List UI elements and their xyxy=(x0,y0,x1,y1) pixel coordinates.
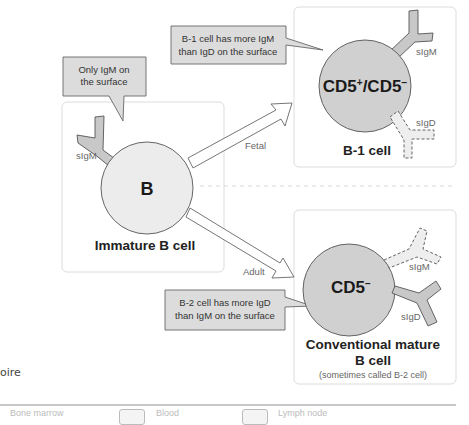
b1-sigd-label: sIgD xyxy=(416,117,436,128)
svg-text:the surface: the surface xyxy=(81,76,128,87)
blood-icon xyxy=(119,409,145,425)
legend-item-lymph-node: Lymph node xyxy=(278,408,327,421)
svg-text:than IgM on the surface: than IgM on the surface xyxy=(175,310,275,321)
immature-sigm-label: sIgM xyxy=(76,150,97,161)
legend-label: Bone marrow xyxy=(10,408,64,418)
immature-core-label: B xyxy=(141,179,154,199)
b2-title-line2: B cell xyxy=(355,353,391,368)
svg-text:B-1 cell has more IgM: B-1 cell has more IgM xyxy=(182,33,274,44)
legend-item-blood: Blood xyxy=(156,408,179,421)
b2-sigd-label: sIgD xyxy=(401,311,421,322)
b2-sigm-label: sIgM xyxy=(409,261,430,272)
legend-divider xyxy=(0,404,456,406)
svg-text:Only IgM on: Only IgM on xyxy=(78,64,129,75)
svg-text:B-2 cell has more IgD: B-2 cell has more IgD xyxy=(179,297,270,308)
fetal-label: Fetal xyxy=(245,140,266,151)
b2-subtitle: (sometimes called B-2 cell) xyxy=(319,370,427,380)
b2-core-label: CD5− xyxy=(331,278,371,297)
legend-label: Blood xyxy=(156,408,179,418)
legend-label: Lymph node xyxy=(278,408,327,418)
callout-b2: B-2 cell has more IgD than IgM on the su… xyxy=(165,290,312,330)
immature-title: Immature B cell xyxy=(95,238,196,253)
b1-title: B-1 cell xyxy=(343,143,391,158)
legend-item-bone-marrow: Bone marrow xyxy=(10,408,64,421)
b1-core-label: CD5+/CD5− xyxy=(323,77,408,96)
svg-text:than IgD on the surface: than IgD on the surface xyxy=(179,46,278,57)
adult-label: Adult xyxy=(243,266,265,277)
b1-sigm-label: sIgM xyxy=(416,46,437,57)
b2-title-line1: Conventional mature xyxy=(306,337,441,352)
partial-caption-text: oire xyxy=(0,366,21,379)
lymph-node-icon xyxy=(242,409,268,425)
